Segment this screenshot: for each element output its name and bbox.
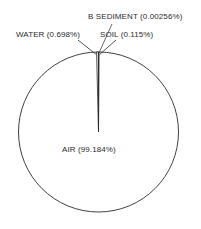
pie-label-soil: SOIL (0.115%): [100, 30, 153, 40]
pie-label-water: WATER (0.698%): [16, 30, 80, 40]
pie-label-air: AIR (99.184%): [62, 145, 116, 155]
pie-chart-figure: B SEDIMENT (0.00256%) WATER (0.698%) SOI…: [0, 0, 201, 229]
leader-line-water: [78, 40, 96, 55]
pie-label-b-sediment: B SEDIMENT (0.00256%): [88, 12, 182, 22]
